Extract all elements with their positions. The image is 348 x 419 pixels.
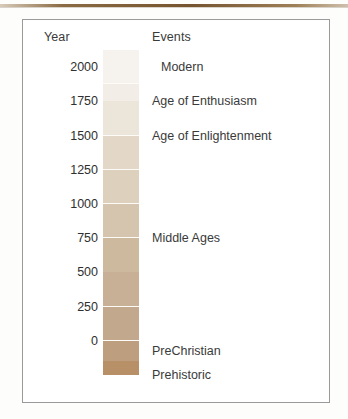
year-tick-label: 500 [40, 266, 98, 278]
top-rule-shadow [0, 7, 348, 8]
year-tick-label: 1250 [40, 164, 98, 176]
event-label: Age of Enthusiasm [152, 95, 257, 107]
year-tick-label: 250 [40, 301, 98, 313]
year-tick-label: 1000 [40, 198, 98, 210]
event-label: PreChristian [152, 345, 221, 357]
events-column-header: Events [152, 30, 191, 44]
year-tick-label: 2000 [40, 61, 98, 73]
color-band [103, 84, 139, 101]
color-band [103, 238, 139, 272]
color-band [103, 307, 139, 341]
event-label: Prehistoric [152, 369, 211, 381]
color-band [103, 136, 139, 170]
event-label: Middle Ages [152, 232, 220, 244]
event-label: Modern [161, 61, 203, 73]
year-tick-label: 1750 [40, 95, 98, 107]
color-band [103, 204, 139, 238]
year-tick-label: 750 [40, 232, 98, 244]
color-band [103, 272, 139, 306]
color-band [103, 341, 139, 362]
color-band [103, 50, 139, 84]
color-band [103, 361, 139, 375]
color-band [103, 101, 139, 135]
year-tick-label: 1500 [40, 130, 98, 142]
year-column-header: Year [44, 30, 70, 44]
event-label: Age of Enlightenment [152, 130, 272, 142]
timeline-color-bar [103, 50, 139, 375]
year-tick-label: 0 [40, 335, 98, 347]
color-band [103, 170, 139, 204]
